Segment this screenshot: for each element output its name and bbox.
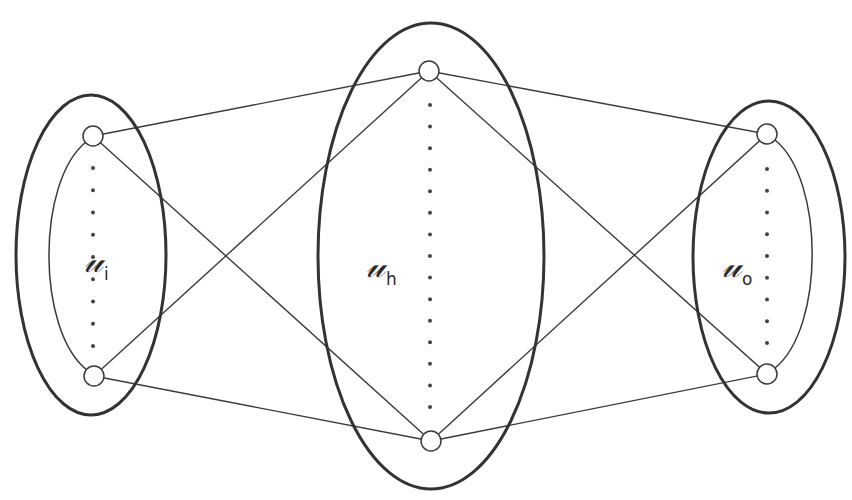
input-layer-symbol: 𝓊 [84,240,101,280]
hidden-layer-subscript: h [386,269,397,289]
ellipsis-dot [428,168,432,172]
ellipsis-dot [428,340,432,344]
output-neuron-2 [757,364,777,384]
ellipsis-dot [765,232,769,236]
ellipsis-dot [428,125,432,129]
edge [94,71,429,376]
ellipsis-dot [428,103,432,107]
ellipsis-dot [428,362,432,366]
ellipsis-dot [428,254,432,258]
ellipsis-dot [91,322,95,326]
output-layer-label: 𝓊o [722,245,752,289]
ellipsis-dot [765,341,769,345]
ellipsis-dot [765,276,769,280]
ellipsis-dot [428,189,432,193]
ellipsis-dot [765,319,769,323]
ellipsis-dot [428,146,432,150]
hidden-neuron-2 [421,431,441,451]
input-layer-subscript: i [104,264,109,284]
hidden-neuron-1 [419,61,439,81]
edge [94,376,431,441]
ellipsis-dot [91,188,95,192]
edge [93,71,429,136]
ellipsis-dot [91,211,95,215]
output-neuron-1 [757,124,777,144]
hidden-layer-label: 𝓊h [366,245,397,289]
ellipsis-dot [765,167,769,171]
output-layer-subscript: o [742,269,752,289]
ellipsis-dot [765,189,769,193]
ellipsis-dot [765,298,769,302]
ellipsis-dot [428,383,432,387]
ellipsis-dot [428,405,432,409]
ellipsis-dot [91,344,95,348]
network-diagram: 𝓊i 𝓊h 𝓊o [0,0,852,500]
ellipsis-dots [91,103,769,409]
input-neuron-2 [84,366,104,386]
output-inner-arc [775,140,812,368]
input-inner-arc [49,142,87,370]
ellipsis-dot [428,211,432,215]
ellipsis-dot [765,211,769,215]
ellipsis-dot [428,232,432,236]
hidden-layer-symbol: 𝓊 [366,245,383,285]
edge [431,134,767,441]
ellipsis-dot [428,276,432,280]
ellipsis-dot [765,254,769,258]
output-layer-symbol: 𝓊 [722,245,739,285]
ellipsis-dot [91,233,95,237]
ellipsis-dot [428,297,432,301]
edge [429,71,767,134]
edge [429,71,767,374]
edge [431,374,767,441]
ellipsis-dot [91,166,95,170]
ellipsis-dot [91,300,95,304]
input-layer-label: 𝓊i [84,240,109,284]
ellipsis-dot [428,319,432,323]
input-neuron-1 [83,126,103,146]
